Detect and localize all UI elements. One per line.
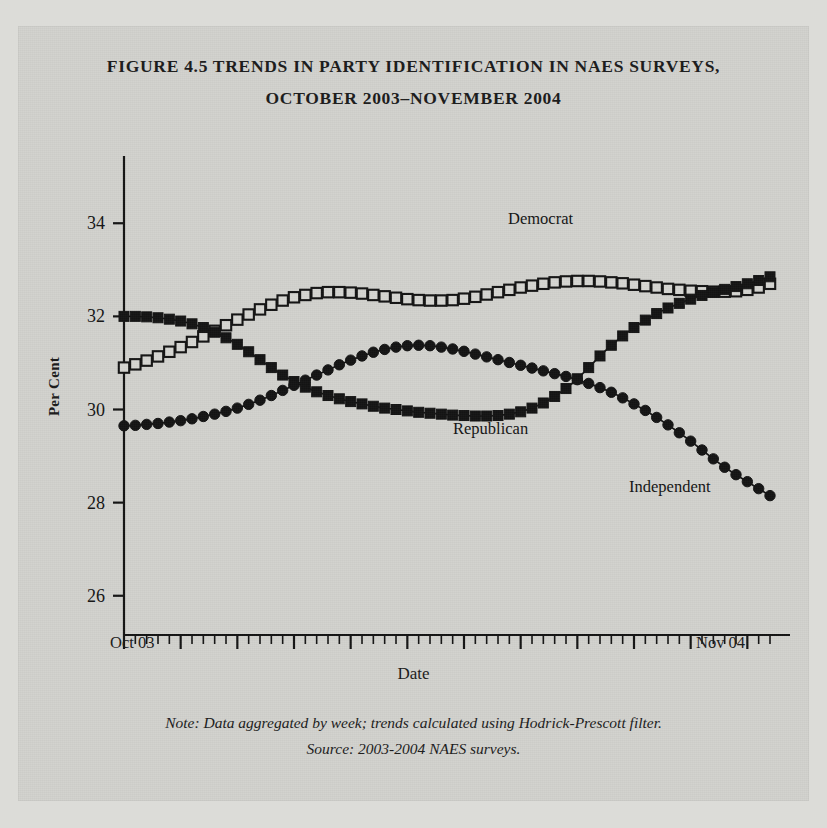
y-axis-tick-label: 32 bbox=[87, 306, 105, 326]
data-point-marker bbox=[583, 378, 593, 388]
data-point-marker bbox=[651, 412, 661, 422]
figure-note: Note: Data aggregated by week; trends ca… bbox=[18, 714, 809, 732]
data-point-marker bbox=[606, 340, 616, 350]
series-line bbox=[124, 345, 770, 495]
data-point-marker bbox=[187, 319, 197, 329]
data-point-marker bbox=[368, 347, 378, 357]
data-point-marker bbox=[198, 411, 208, 421]
data-point-marker bbox=[584, 363, 594, 373]
data-point-marker bbox=[130, 311, 140, 321]
data-point-marker bbox=[720, 284, 730, 294]
series-label-independent: Independent bbox=[629, 477, 711, 497]
data-point-marker bbox=[606, 277, 616, 287]
data-point-marker bbox=[379, 291, 389, 301]
data-point-marker bbox=[618, 331, 628, 341]
data-point-marker bbox=[538, 279, 548, 289]
data-point-marker bbox=[357, 399, 367, 409]
data-point-marker bbox=[742, 476, 752, 486]
data-point-marker bbox=[379, 344, 389, 354]
data-point-marker bbox=[549, 277, 559, 287]
data-point-marker bbox=[447, 344, 457, 354]
data-point-marker bbox=[289, 380, 299, 390]
x-axis-start-label: Oct 03 bbox=[110, 633, 154, 653]
data-point-marker bbox=[459, 346, 469, 356]
data-point-marker bbox=[527, 403, 537, 413]
data-point-marker bbox=[572, 276, 582, 286]
data-point-marker bbox=[629, 280, 639, 290]
data-point-marker bbox=[402, 294, 412, 304]
data-point-marker bbox=[606, 387, 616, 397]
data-point-marker bbox=[459, 293, 469, 303]
data-point-marker bbox=[663, 303, 673, 313]
x-axis-end-label: Nov 04 bbox=[696, 633, 745, 653]
data-point-marker bbox=[549, 368, 559, 378]
data-point-marker bbox=[402, 406, 412, 416]
data-point-marker bbox=[674, 285, 684, 295]
data-point-marker bbox=[493, 354, 503, 364]
data-point-marker bbox=[572, 375, 582, 385]
series-label-republican: Republican bbox=[453, 419, 528, 439]
figure-panel: FIGURE 4.5 TRENDS IN PARTY IDENTIFICATIO… bbox=[18, 26, 809, 801]
data-point-marker bbox=[719, 462, 729, 472]
data-point-marker bbox=[345, 355, 355, 365]
data-point-marker bbox=[209, 409, 219, 419]
data-point-marker bbox=[753, 483, 763, 493]
data-point-marker bbox=[391, 293, 401, 303]
data-point-marker bbox=[640, 281, 650, 291]
data-point-marker bbox=[175, 415, 185, 425]
data-point-marker bbox=[470, 349, 480, 359]
data-point-marker bbox=[311, 288, 321, 298]
data-point-marker bbox=[527, 363, 537, 373]
data-point-marker bbox=[425, 295, 435, 305]
data-point-marker bbox=[266, 390, 276, 400]
data-point-marker bbox=[617, 393, 627, 403]
data-point-marker bbox=[119, 311, 129, 321]
data-point-marker bbox=[232, 339, 242, 349]
data-point-marker bbox=[516, 407, 526, 417]
data-point-marker bbox=[731, 469, 741, 479]
data-point-marker bbox=[640, 315, 650, 325]
data-point-marker bbox=[164, 417, 174, 427]
data-point-marker bbox=[708, 287, 718, 297]
data-point-marker bbox=[198, 323, 208, 333]
data-point-marker bbox=[289, 292, 299, 302]
data-point-marker bbox=[130, 359, 140, 369]
data-point-marker bbox=[311, 370, 321, 380]
data-point-marker bbox=[731, 282, 741, 292]
data-point-marker bbox=[210, 327, 220, 337]
data-point-marker bbox=[142, 312, 152, 322]
data-point-marker bbox=[527, 280, 537, 290]
y-axis-tick-label: 28 bbox=[87, 493, 105, 513]
data-point-marker bbox=[357, 288, 367, 298]
data-point-marker bbox=[640, 405, 650, 415]
data-point-marker bbox=[368, 401, 378, 411]
data-point-marker bbox=[334, 360, 344, 370]
data-point-marker bbox=[708, 454, 718, 464]
y-axis-tick-label: 26 bbox=[87, 586, 105, 606]
series-label-democrat: Democrat bbox=[508, 209, 573, 229]
data-point-marker bbox=[515, 282, 525, 292]
data-point-marker bbox=[402, 341, 412, 351]
data-point-marker bbox=[470, 292, 480, 302]
data-point-marker bbox=[277, 295, 287, 305]
data-point-marker bbox=[550, 391, 560, 401]
data-point-marker bbox=[629, 399, 639, 409]
data-point-marker bbox=[176, 316, 186, 326]
data-point-marker bbox=[436, 342, 446, 352]
data-point-marker bbox=[391, 405, 401, 415]
data-point-marker bbox=[300, 290, 310, 300]
data-point-marker bbox=[436, 295, 446, 305]
data-point-marker bbox=[345, 287, 355, 297]
figure-source: Source: 2003-2004 NAES surveys. bbox=[18, 740, 809, 758]
data-point-marker bbox=[413, 340, 423, 350]
data-point-marker bbox=[232, 314, 242, 324]
data-point-marker bbox=[221, 333, 231, 343]
data-point-marker bbox=[243, 309, 253, 319]
data-point-marker bbox=[119, 421, 129, 431]
data-point-marker bbox=[504, 285, 514, 295]
data-point-marker bbox=[674, 428, 684, 438]
data-point-marker bbox=[312, 387, 322, 397]
data-point-marker bbox=[629, 323, 639, 333]
data-point-marker bbox=[561, 371, 571, 381]
data-point-marker bbox=[141, 355, 151, 365]
